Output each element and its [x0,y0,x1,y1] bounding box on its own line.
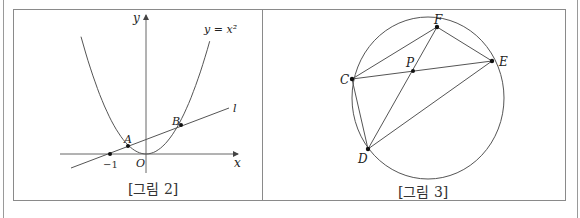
point-e-label: E [498,55,508,69]
circle [352,17,504,179]
point-b-label: B [171,115,180,128]
y-axis-label: y [132,11,140,25]
line-l [71,108,229,168]
origin-label: O [136,157,145,170]
point-d-label: D [357,152,368,166]
figures-canvas: y x O −1 A B l y = x² C F E D P [0,0,580,218]
figure-3-caption: [그림 3] [398,181,448,201]
point-f-label: F [433,13,443,27]
figure-3: C F E D P [340,13,508,179]
point-p-label: P [405,56,415,70]
point-c [350,77,354,81]
tick-label-minus-one: −1 [103,159,118,170]
point-d [366,147,370,151]
figure-2-caption: [그림 2] [128,178,178,198]
line-l-label: l [233,102,237,115]
x-axis-label: x [234,156,241,170]
chords [352,27,492,149]
point-e [490,59,494,63]
chord-df [368,27,437,149]
point-a-label: A [123,133,132,146]
figure-2: y x O −1 A B l y = x² [60,11,241,173]
curve-label: y = x² [203,23,237,36]
point-c-label: C [340,73,349,87]
parabola-curve [81,37,210,154]
point-minus-one [108,152,112,156]
